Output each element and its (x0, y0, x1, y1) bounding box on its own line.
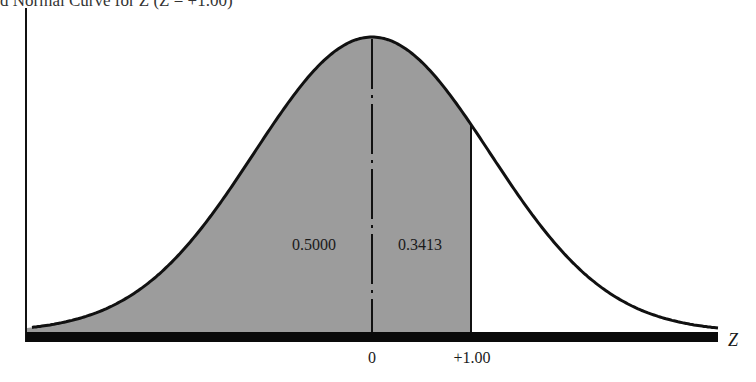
shaded-area (27, 37, 471, 332)
area-label-right: 0.3413 (398, 236, 442, 253)
x-axis (26, 332, 718, 342)
tick-label-zero: 0 (368, 349, 376, 366)
area-label-left: 0.5000 (292, 236, 336, 253)
axis-label-z: Z (728, 330, 739, 350)
tick-label-one: +1.00 (453, 349, 490, 366)
normal-curve-chart: 0.5000 0.3413 0 +1.00 Z (0, 0, 756, 382)
